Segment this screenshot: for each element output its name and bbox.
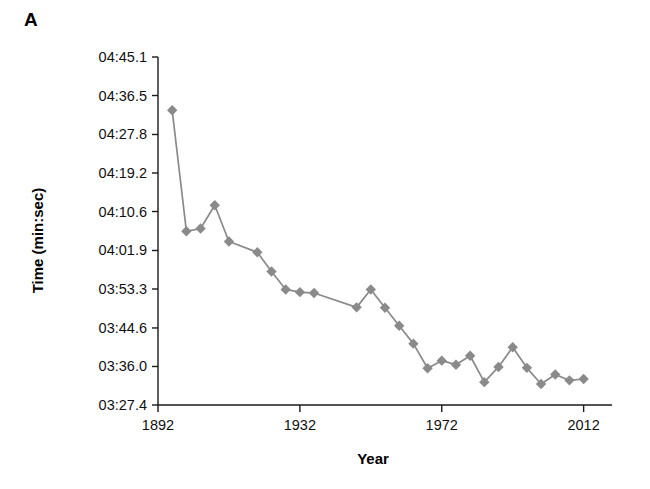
data-point-marker (550, 369, 560, 379)
data-point-marker (437, 355, 447, 365)
x-tick-label: 2012 (567, 417, 599, 433)
data-point-marker (422, 363, 432, 373)
y-tick-label: 03:53.3 (99, 281, 147, 297)
series-line-winning-time (172, 110, 583, 384)
y-tick-label: 04:27.8 (99, 126, 147, 142)
line-chart-plot: 04:45.104:36.504:27.804:19.204:10.604:01… (0, 0, 650, 489)
figure-panel-a: A Time (min:sec) Year 04:45.104:36.504:2… (0, 0, 650, 489)
y-tick-label: 04:19.2 (99, 165, 147, 181)
y-tick-label: 03:44.6 (99, 320, 147, 336)
data-point-marker (451, 359, 461, 369)
data-point-marker (564, 375, 574, 385)
data-point-marker (195, 223, 205, 233)
data-point-marker (210, 200, 220, 210)
y-axis-tick-labels: 04:45.104:36.504:27.804:19.204:10.604:01… (99, 49, 147, 413)
y-tick-label: 04:45.1 (99, 49, 147, 65)
data-point-marker (465, 351, 475, 361)
x-axis-ticks (158, 405, 584, 412)
x-tick-label: 1932 (284, 417, 316, 433)
y-tick-label: 03:27.4 (99, 397, 147, 413)
y-tick-label: 04:01.9 (99, 242, 147, 258)
data-point-marker (181, 226, 191, 236)
x-tick-label: 1892 (142, 417, 174, 433)
data-point-marker (578, 374, 588, 384)
y-tick-label: 03:36.0 (99, 358, 147, 374)
data-point-marker (167, 105, 177, 115)
series-markers-winning-time (167, 105, 589, 389)
data-point-marker (309, 288, 319, 298)
y-tick-label: 04:36.5 (99, 88, 147, 104)
y-axis-ticks (152, 57, 158, 405)
data-point-marker (295, 287, 305, 297)
x-tick-label: 1972 (426, 417, 458, 433)
x-axis-tick-labels: 1892193219722012 (142, 417, 600, 433)
y-tick-label: 04:10.6 (99, 204, 147, 220)
data-point-marker (224, 236, 234, 246)
